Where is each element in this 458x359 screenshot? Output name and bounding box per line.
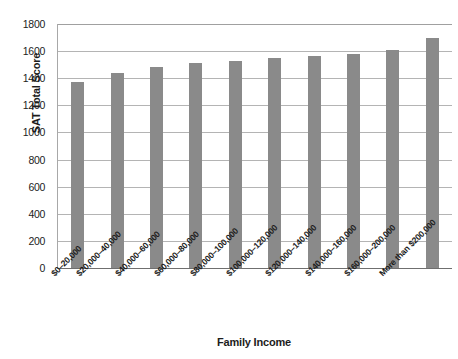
x-axis-tick-labels: $0–20,000$20,000–40,000$40,000–60,000$60… — [57, 269, 451, 335]
y-tick-label: 1800 — [23, 18, 45, 30]
y-axis-tick-labels: 1800 1600 1400 1200 1000 800 600 400 200… — [0, 0, 54, 359]
y-tick-label: 800 — [28, 154, 45, 166]
bar-slot — [58, 24, 97, 268]
y-tick-label: 1000 — [23, 126, 45, 138]
y-tick-label: 400 — [28, 208, 45, 220]
sat-score-by-family-income-chart: SAT Total Score 1800 1600 1400 1200 1000… — [0, 0, 458, 359]
y-tick-label: 1600 — [23, 45, 45, 57]
y-tick-label: 1200 — [23, 99, 45, 111]
y-tick-label: 0 — [39, 262, 45, 274]
x-axis-title: Family Income — [57, 336, 451, 348]
y-tick-label: 1400 — [23, 72, 45, 84]
y-tick-label: 200 — [28, 235, 45, 247]
y-tick-label: 600 — [28, 181, 45, 193]
bar — [71, 82, 84, 268]
